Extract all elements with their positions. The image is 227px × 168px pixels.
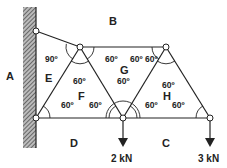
region-label-g: G — [120, 64, 129, 76]
node-bottom-mid — [120, 115, 126, 121]
node-top-1 — [77, 44, 83, 50]
angle-label: 60º — [145, 54, 158, 64]
node-wall-top — [33, 28, 39, 34]
region-label-h: H — [163, 90, 171, 102]
region-label-c: C — [162, 137, 170, 149]
load-label-right: 3 kN — [198, 153, 219, 164]
angle-label: 60º — [145, 100, 158, 110]
node-top-2 — [163, 44, 169, 50]
truss-diagram: A B C D E F G H 90º 60º 60º 60º 60º 60º … — [0, 0, 227, 168]
member-tie — [36, 31, 80, 47]
arrow-down-icon — [205, 138, 215, 147]
load-label-middle: 2 kN — [111, 153, 132, 164]
angle-label: 60º — [172, 100, 185, 110]
arrow-down-icon — [118, 138, 128, 147]
region-label-a: A — [6, 70, 14, 82]
angle-label: 60º — [162, 80, 175, 90]
region-label-d: D — [70, 137, 78, 149]
region-label-f: F — [78, 90, 85, 102]
angle-label: 60º — [61, 100, 74, 110]
angle-label: 60º — [117, 76, 130, 86]
angle-label: 90º — [45, 54, 58, 64]
angle-label: 60º — [89, 100, 102, 110]
node-wall-bottom — [33, 115, 39, 121]
region-label-e: E — [45, 72, 52, 84]
truss-svg: A B C D E F G H 90º 60º 60º 60º 60º 60º … — [0, 0, 227, 168]
angle-label: 60º — [105, 54, 118, 64]
region-label-b: B — [109, 15, 117, 27]
angle-label: 60º — [130, 54, 143, 64]
angle-label: 60º — [73, 76, 86, 86]
node-bottom-right — [207, 115, 213, 121]
